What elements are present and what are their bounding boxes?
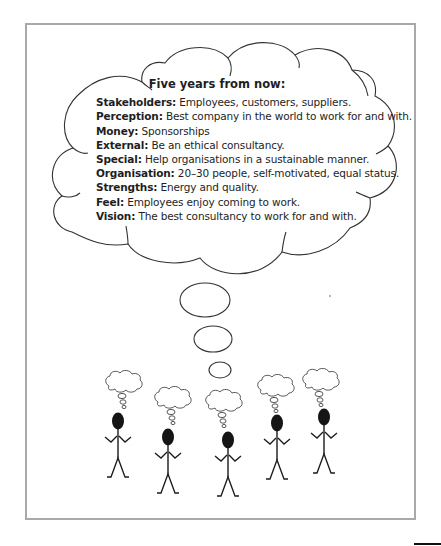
item-value: Energy and quality. [157, 181, 258, 193]
cloud-title: Five years from now: [96, 77, 332, 91]
item-key: Perception: [96, 110, 163, 122]
item-key: Vision: [96, 210, 135, 222]
item-special: Special: Help organisations in a sustain… [96, 152, 396, 166]
item-key: Organisation: [96, 167, 175, 179]
item-value: Employees, customers, suppliers. [176, 96, 351, 108]
item-perception: Perception: Best company in the world to… [96, 109, 396, 123]
item-vision: Vision: The best consultancy to work for… [96, 209, 396, 223]
item-key: External: [96, 139, 148, 151]
thought-oval-small [209, 362, 231, 378]
thought-oval-medium [194, 326, 232, 352]
item-value: Be an ethical consultancy. [148, 139, 284, 151]
item-key: Money: [96, 125, 138, 137]
item-value: Best company in the world to work for an… [163, 110, 412, 122]
person-1 [105, 370, 142, 477]
person-3 [206, 389, 242, 496]
cloud-text: Five years from now: Stakeholders: Emplo… [96, 77, 396, 223]
person-4 [258, 374, 294, 479]
item-strengths: Strengths: Energy and quality. [96, 180, 396, 194]
item-key: Strengths: [96, 181, 157, 193]
item-stakeholders: Stakeholders: Employees, customers, supp… [96, 95, 396, 109]
person-2 [155, 386, 191, 493]
person-5 [303, 368, 339, 473]
item-value: Help organisations in a sustainable mann… [142, 153, 369, 165]
item-organisation: Organisation: 20–30 people, self-motivat… [96, 166, 396, 180]
item-key: Special: [96, 153, 142, 165]
item-value: Employees enjoy coming to work. [124, 196, 300, 208]
item-value: Sponsorships [138, 125, 209, 137]
item-value: 20–30 people, self-motivated, equal stat… [175, 167, 399, 179]
page-edge-mark [414, 543, 441, 545]
item-value: The best consultancy to work for and wit… [135, 210, 356, 222]
item-external: External: Be an ethical consultancy. [96, 138, 396, 152]
item-key: Stakeholders: [96, 96, 176, 108]
thought-oval-large [180, 283, 230, 317]
item-feel: Feel: Employees enjoy coming to work. [96, 195, 396, 209]
item-money: Money: Sponsorships [96, 124, 396, 138]
item-key: Feel: [96, 196, 124, 208]
